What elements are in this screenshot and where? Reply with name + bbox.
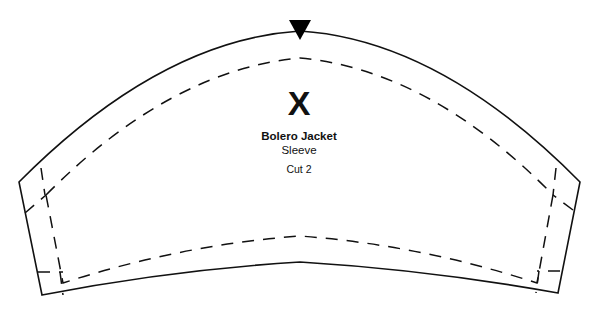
left-seam-corners xyxy=(25,168,63,295)
notch-triangle-icon xyxy=(289,20,311,40)
center-mark: X xyxy=(0,84,598,122)
cut-instruction: Cut 2 xyxy=(0,162,598,176)
garment-title: Bolero Jacket xyxy=(0,129,598,143)
piece-name: Sleeve xyxy=(0,143,598,157)
sleeve-pattern-piece xyxy=(0,0,598,316)
right-seam-corners xyxy=(536,168,573,293)
